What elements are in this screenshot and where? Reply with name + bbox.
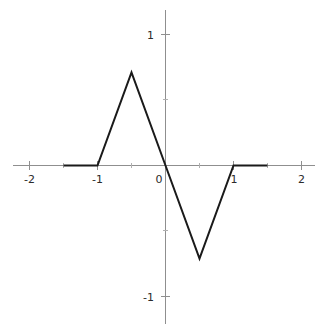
plot-background (0, 0, 328, 334)
x-tick-label--1: -1 (92, 173, 103, 186)
y-tick-label--1: -1 (143, 291, 154, 304)
x-tick-label--2: -2 (24, 173, 35, 186)
x-tick-label-0: 0 (156, 173, 163, 186)
y-tick-label-1: 1 (147, 29, 154, 42)
x-tick-label-1: 1 (231, 173, 238, 186)
chart-canvas: -2 -1 0 1 2 1 -1 (0, 0, 328, 334)
function-plot: -2 -1 0 1 2 1 -1 (0, 0, 328, 334)
x-tick-label-2: 2 (298, 173, 305, 186)
